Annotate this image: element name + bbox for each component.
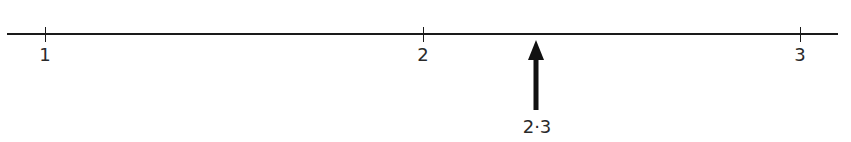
tick-label-2: 2: [417, 46, 428, 64]
tick-3: [800, 27, 801, 42]
tick-label-1: 1: [39, 46, 50, 64]
tick-2: [423, 27, 424, 42]
tick-label-3: 3: [794, 46, 805, 64]
tick-1: [45, 27, 46, 42]
marker-label: 2·3: [523, 117, 552, 137]
up-arrow-icon: [524, 38, 548, 112]
number-line-diagram: 1 2 3 2·3: [0, 0, 851, 142]
